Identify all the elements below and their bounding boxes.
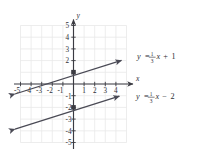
eq2-constant: 2 <box>170 92 174 101</box>
figure-background <box>0 0 198 157</box>
eq1-equals: = <box>145 52 150 61</box>
x-axis-label: x <box>135 74 140 83</box>
eq1-variable: x <box>156 52 161 61</box>
eq1-operator: + <box>163 52 168 61</box>
y-tick-label: 2 <box>65 57 69 65</box>
eq2-numerator: 1 <box>150 91 153 97</box>
x-tick-label: 2 <box>93 87 97 95</box>
point-marker <box>71 105 76 110</box>
eq2-lhs: y <box>135 92 140 101</box>
eq2-variable: x <box>155 92 160 101</box>
x-tick-label: -2 <box>47 87 53 95</box>
y-tick-label: 4 <box>65 34 69 42</box>
y-tick-label: 5 <box>65 22 69 30</box>
coordinate-plane-svg: -5 -4 -3 -2 -1 1 2 3 4 5 4 3 2 -1 -2 -3 … <box>0 0 198 157</box>
x-tick-label: -3 <box>36 87 42 95</box>
y-tick-label: 3 <box>65 46 69 54</box>
graph-figure: -5 -4 -3 -2 -1 1 2 3 4 5 4 3 2 -1 -2 -3 … <box>0 0 198 157</box>
eq1-numerator: 1 <box>151 51 154 57</box>
y-tick-label: -3 <box>66 116 72 124</box>
x-tick-label: 4 <box>114 87 118 95</box>
eq1-constant: 1 <box>171 52 175 61</box>
eq2-operator: − <box>162 92 167 101</box>
point-marker <box>71 70 76 75</box>
x-tick-label: 3 <box>104 87 108 95</box>
y-tick-label: -1 <box>66 93 72 101</box>
eq1-lhs: y <box>136 52 141 61</box>
eq2-denominator: 3 <box>150 98 153 104</box>
x-tick-label: -1 <box>57 87 63 95</box>
y-tick-label: -4 <box>66 128 72 136</box>
x-tick-label: -5 <box>14 87 20 95</box>
eq2-equals: = <box>144 92 149 101</box>
eq1-denominator: 3 <box>151 58 154 64</box>
x-tick-label: 1 <box>82 87 86 95</box>
y-tick-label: -5 <box>66 139 72 147</box>
y-axis-label: y <box>75 11 80 20</box>
